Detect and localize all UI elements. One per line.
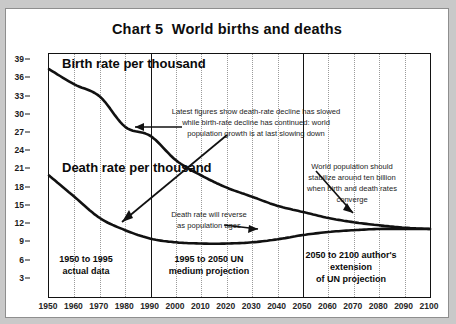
y-axis-tick xyxy=(25,131,30,132)
arrow-diagonal-shaft xyxy=(122,135,227,222)
y-axis-tick xyxy=(25,223,30,224)
x-axis-label: 2090 xyxy=(394,301,413,311)
y-axis-label: 9 xyxy=(19,236,24,246)
x-axis-label: 2040 xyxy=(267,301,286,311)
y-axis-tick xyxy=(25,204,30,205)
screenshot-root: Chart 5 World births and deaths 39363330… xyxy=(0,0,456,324)
y-axis-label: 3 xyxy=(19,273,24,283)
period-box-un-projection: 1995 to 2050 UN medium projection xyxy=(146,253,272,277)
y-axis-label: 36 xyxy=(15,72,24,82)
y-axis-label: 12 xyxy=(15,218,24,228)
y-axis-label: 24 xyxy=(15,145,24,155)
y-axis-label: 30 xyxy=(15,109,24,119)
x-axis-label: 2010 xyxy=(191,301,210,311)
y-axis-label: 33 xyxy=(15,91,24,101)
y-axis-label: 6 xyxy=(19,255,24,265)
y-axis-label: 15 xyxy=(15,200,24,210)
y-axis-tick xyxy=(25,113,30,114)
x-axis-label: 2000 xyxy=(166,301,185,311)
y-axis-tick xyxy=(25,241,30,242)
y-axis-tick xyxy=(25,186,30,187)
x-axis-label: 1990 xyxy=(140,301,159,311)
period-box-actual: 1950 to 1995 actual data xyxy=(34,253,138,277)
y-axis-tick xyxy=(25,277,30,278)
chart-paper: Chart 5 World births and deaths 39363330… xyxy=(5,8,449,318)
y-axis-label: 21 xyxy=(15,163,24,173)
page-title: Chart 5 World births and deaths xyxy=(6,21,448,37)
x-axis-label: 1970 xyxy=(89,301,108,311)
y-axis-label: 18 xyxy=(15,182,24,192)
x-axis-label: 1980 xyxy=(115,301,134,311)
y-axis-tick xyxy=(25,77,30,78)
x-axis-label: 2060 xyxy=(318,301,337,311)
x-axis-label: 2030 xyxy=(242,301,261,311)
period-box-author-extension: 2050 to 2100 author's extension of UN pr… xyxy=(283,249,419,285)
y-axis-tick xyxy=(25,95,30,96)
x-axis-label: 2020 xyxy=(216,301,235,311)
arrow-left-head xyxy=(135,123,144,131)
y-axis-tick xyxy=(25,259,30,260)
arrow-small-head xyxy=(248,225,258,233)
x-axis: 1950196019701980199020002010202020302040… xyxy=(48,301,429,319)
x-axis-label: 1960 xyxy=(64,301,83,311)
arrow-diagonal-head xyxy=(122,210,133,222)
y-axis-tick xyxy=(25,168,30,169)
x-axis-label: 2080 xyxy=(369,301,388,311)
x-axis-label: 2050 xyxy=(293,301,312,311)
y-axis-tick xyxy=(25,59,30,60)
x-axis-label: 2100 xyxy=(420,301,439,311)
x-axis-label: 1950 xyxy=(39,301,58,311)
x-axis-label: 2070 xyxy=(343,301,362,311)
y-axis-label: 27 xyxy=(15,127,24,137)
y-axis-tick xyxy=(25,150,30,151)
y-axis-label: 39 xyxy=(15,54,24,64)
